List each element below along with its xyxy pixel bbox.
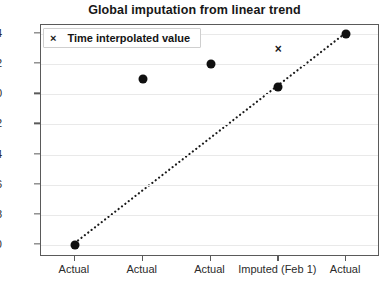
gridline-y: [41, 185, 378, 186]
data-point-marker: [342, 30, 351, 39]
x-axis-tick-label: Actual: [330, 263, 361, 275]
x-axis-tick: [142, 256, 143, 261]
plot-area: ×: [40, 24, 379, 256]
legend-x-marker-icon: ×: [50, 33, 56, 44]
y-axis-tick: [34, 213, 40, 214]
legend-item-label: Time interpolated value: [67, 32, 190, 44]
gridline-y: [41, 215, 378, 216]
y-axis-tick-label: 2: [0, 57, 2, 69]
y-axis-tick: [34, 183, 40, 184]
gridline-y: [41, 124, 378, 125]
x-axis-tick: [345, 256, 346, 261]
gridline-y: [41, 94, 378, 95]
y-axis-tick: [34, 93, 40, 94]
chart-container: Global imputation from linear trend × × …: [0, 0, 389, 287]
gridline-y: [41, 245, 378, 246]
data-point-marker: [70, 240, 79, 249]
x-axis-tick-label: Actual: [194, 263, 225, 275]
y-axis-tick-label: −8: [0, 208, 2, 220]
x-axis-tick-label: Actual: [126, 263, 157, 275]
y-axis-tick: [34, 243, 40, 244]
y-axis-tick-label: 0: [0, 87, 2, 99]
y-axis-tick: [34, 63, 40, 64]
x-axis-tick: [74, 256, 75, 261]
x-axis-tick-label: Imputed (Feb 1): [238, 263, 316, 275]
y-axis-tick: [34, 153, 40, 154]
data-point-marker: [138, 75, 147, 84]
y-axis-tick-label: −6: [0, 178, 2, 190]
data-point-marker: [206, 60, 215, 69]
x-axis-tick: [277, 256, 278, 261]
y-axis-tick: [34, 32, 40, 33]
chart-legend: × Time interpolated value: [43, 28, 201, 48]
chart-title: Global imputation from linear trend: [0, 3, 389, 17]
x-axis-tick: [210, 256, 211, 261]
y-axis-tick-label: −2: [0, 117, 2, 129]
y-axis-tick-label: −4: [0, 148, 2, 160]
gridline-y: [41, 155, 378, 156]
y-axis-tick-label: 4: [0, 27, 2, 39]
time-interpolated-value-marker: ×: [275, 43, 282, 55]
y-axis-tick: [34, 123, 40, 124]
x-axis-tick-label: Actual: [59, 263, 90, 275]
y-axis-tick-label: −10: [0, 238, 2, 250]
data-point-marker: [274, 82, 283, 91]
